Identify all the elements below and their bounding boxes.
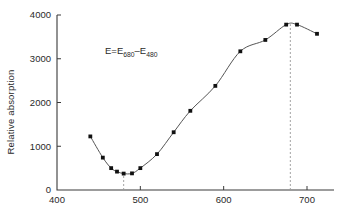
data-point (284, 23, 288, 27)
data-point (138, 166, 142, 170)
formula-annotation: E=E680–E480 (105, 45, 158, 58)
data-point (172, 130, 176, 134)
y-tick-label: 0 (46, 184, 51, 195)
data-point (238, 49, 242, 53)
y-tick-label: 3000 (30, 53, 51, 64)
data-point (263, 38, 267, 42)
x-axis-ticks (140, 186, 307, 190)
formula-subscript-680: 680 (123, 51, 135, 58)
data-point (88, 135, 92, 139)
y-tick-label: 2000 (30, 97, 51, 108)
y-tick-label: 1000 (30, 141, 51, 152)
formula-mid: –E (135, 45, 147, 56)
y-axis-title: Relative absorption (5, 69, 16, 154)
y-axis-ticks (57, 15, 61, 146)
absorption-spectrum-chart: 400500600700 01000200030004000 Relative … (0, 0, 350, 216)
data-point (155, 152, 159, 156)
x-tick-label: 500 (132, 194, 148, 205)
formula-lead: E=E (105, 45, 123, 56)
formula-subscript-480: 480 (146, 51, 158, 58)
data-point (188, 109, 192, 113)
chart-figure: 400500600700 01000200030004000 Relative … (0, 0, 350, 216)
y-axis-tick-labels: 01000200030004000 (30, 9, 51, 195)
fitted-curve (90, 23, 317, 174)
x-tick-label: 600 (216, 194, 232, 205)
x-axis-tick-labels: 400500600700 (49, 194, 315, 205)
data-point (109, 166, 113, 170)
data-point (115, 170, 119, 174)
y-tick-label: 4000 (30, 9, 51, 20)
data-point (101, 156, 105, 160)
x-tick-label: 400 (49, 194, 65, 205)
data-point (213, 84, 217, 88)
axes-group (57, 15, 334, 190)
x-tick-label: 700 (299, 194, 315, 205)
data-point (122, 172, 126, 176)
reference-lines-group (124, 24, 291, 190)
data-point (315, 32, 319, 36)
data-point (295, 23, 299, 27)
axis-lines (57, 15, 334, 190)
data-point (130, 171, 134, 175)
